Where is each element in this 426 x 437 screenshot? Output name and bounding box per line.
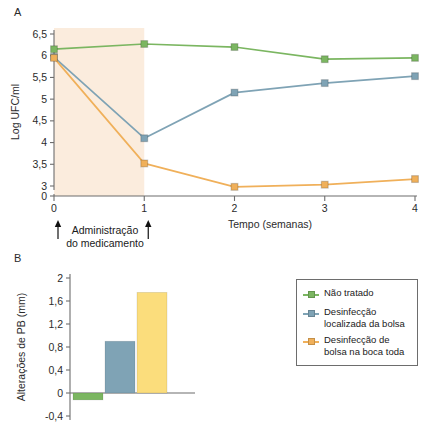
series-2-marker [141, 160, 148, 167]
series-2-marker [412, 176, 419, 183]
legend-label-1: Desinfecção localizada da bolsa [324, 306, 411, 329]
treatment-arrow-head-0 [55, 220, 61, 227]
panel-a-svg: 033,544,555,566,5Log UFC/ml01234Tempo (s… [0, 0, 426, 250]
series-1-marker [321, 80, 328, 87]
y-tick-label: 4,5 [32, 114, 47, 126]
legend-item-2[interactable]: Desinfecção de bolsa na boca toda [303, 334, 411, 357]
series-2-marker [321, 181, 328, 188]
series-1-marker [231, 89, 238, 96]
panel-b-letter: B [14, 252, 21, 264]
y-tick-label: 4 [41, 136, 47, 148]
panel-b-y-tick-label: 2 [57, 272, 63, 284]
x-tick-label: 3 [322, 202, 328, 214]
y-tick-label: 3,5 [32, 158, 47, 170]
treatment-arrow-head-1 [145, 220, 151, 227]
legend-item-1[interactable]: Desinfecção localizada da bolsa [303, 306, 411, 329]
x-tick-label: 0 [51, 202, 57, 214]
x-tick-label: 1 [141, 202, 147, 214]
treatment-shaded-band [54, 28, 144, 196]
series-0-marker [51, 46, 58, 53]
legend-label-0: Não tratado [324, 287, 374, 299]
x-axis-title: Tempo (semanas) [228, 218, 312, 230]
panel-b-y-tick-label: 1,2 [48, 318, 63, 330]
panel-a-letter: A [14, 6, 21, 18]
series-0-marker [141, 41, 148, 48]
legend-label-2: Desinfecção de bolsa na boca toda [324, 334, 411, 357]
series-0-marker [231, 44, 238, 51]
figure-container: A 033,544,555,566,5Log UFC/ml01234Tempo … [0, 0, 426, 437]
panel-b-y-tick-label: 0,8 [48, 341, 63, 353]
legend-swatch-icon-1 [303, 308, 319, 320]
treatment-note-line1: Administração [72, 224, 139, 236]
y-tick-label: 6,5 [32, 28, 47, 40]
panel-b-bar-0 [73, 393, 103, 400]
panel-b-bar-2 [137, 292, 167, 393]
y-tick-label: 3 [41, 180, 47, 192]
series-1-marker [412, 73, 419, 80]
x-tick-label: 2 [232, 202, 238, 214]
panel-b-y-tick-label: 0,4 [48, 364, 63, 376]
y-tick-label: 6 [41, 49, 47, 61]
panel-b-y-tick-label: -0,4 [45, 410, 63, 422]
legend-item-0[interactable]: Não tratado [303, 287, 411, 301]
legend-swatch-icon-0 [303, 289, 319, 301]
series-0-marker [412, 54, 419, 61]
series-1-marker [141, 135, 148, 142]
panel-b-y-axis-title: Alterações de PB (mm) [15, 293, 27, 402]
panel-b-y-tick-label: 1,6 [48, 295, 63, 307]
y-tick-label: 5,5 [32, 71, 47, 83]
y-tick-label: 5 [41, 93, 47, 105]
chart-legend: Não tratadoDesinfecção localizada da bol… [296, 279, 418, 366]
series-0-marker [321, 56, 328, 63]
series-2-marker [51, 54, 58, 61]
legend-swatch-icon-2 [303, 336, 319, 348]
series-2-marker [231, 183, 238, 190]
y-axis-title: Log UFC/ml [9, 84, 21, 140]
panel-a-line-chart: A 033,544,555,566,5Log UFC/ml01234Tempo … [0, 0, 426, 250]
x-tick-label: 4 [412, 202, 418, 214]
panel-b-y-tick-label: 0 [57, 387, 63, 399]
panel-b-bar-1 [105, 341, 135, 393]
